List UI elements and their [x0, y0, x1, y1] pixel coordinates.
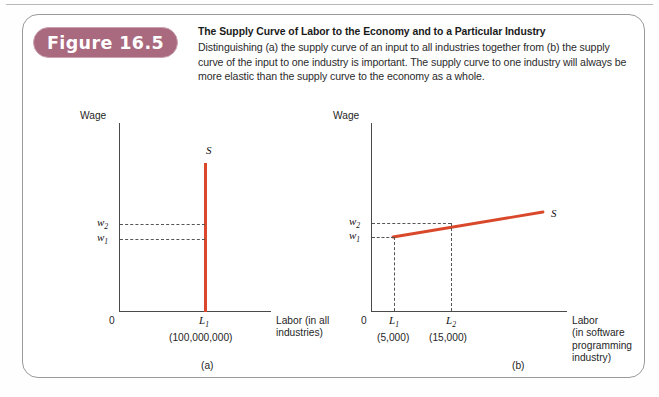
x-axis-label-b-line3: programming [572, 340, 652, 352]
x-axis-label-b-line4: industry) [572, 352, 652, 364]
figure-page: Figure 16.5 The Supply Curve of Labor to… [0, 0, 659, 397]
supply-curve-b [371, 195, 571, 255]
x-tick-value-l1-b: (5,000) [377, 332, 409, 343]
y-tick-w1-b: w1 [349, 229, 360, 244]
x-axis-label-b-line2: (in software [572, 327, 652, 339]
y-tick-w2-b: w2 [349, 215, 360, 230]
panel-caption-b: (b) [512, 360, 524, 371]
figure-card: Figure 16.5 The Supply Curve of Labor to… [22, 14, 645, 378]
chart-panel-b: Wage S w2 w1 0 L1 [23, 15, 646, 379]
x-tick-l1-b-sub: 1 [395, 320, 399, 329]
x-tick-l1-b: L1 [389, 314, 399, 329]
x-tick-value-l2-b: (15,000) [429, 332, 467, 343]
quantity-guide-l2-b [451, 223, 452, 311]
y-tick-w1-b-sub: 1 [356, 235, 360, 244]
x-axis-label-b: Labor (in software programming industry) [572, 315, 652, 365]
x-axis-b [371, 311, 567, 312]
supply-curve-label-b: S [551, 207, 557, 219]
wage-guide-w1-b [372, 237, 394, 238]
quantity-guide-l1-b [394, 237, 395, 311]
x-tick-l2-b: L2 [446, 314, 456, 329]
origin-label-b: 0 [361, 315, 367, 326]
wage-guide-w2-b [372, 223, 451, 224]
y-axis-label-b: Wage [333, 110, 359, 121]
x-tick-l2-b-sub: 2 [452, 320, 456, 329]
x-axis-label-b-line1: Labor [572, 315, 652, 327]
top-divider [6, 4, 653, 5]
